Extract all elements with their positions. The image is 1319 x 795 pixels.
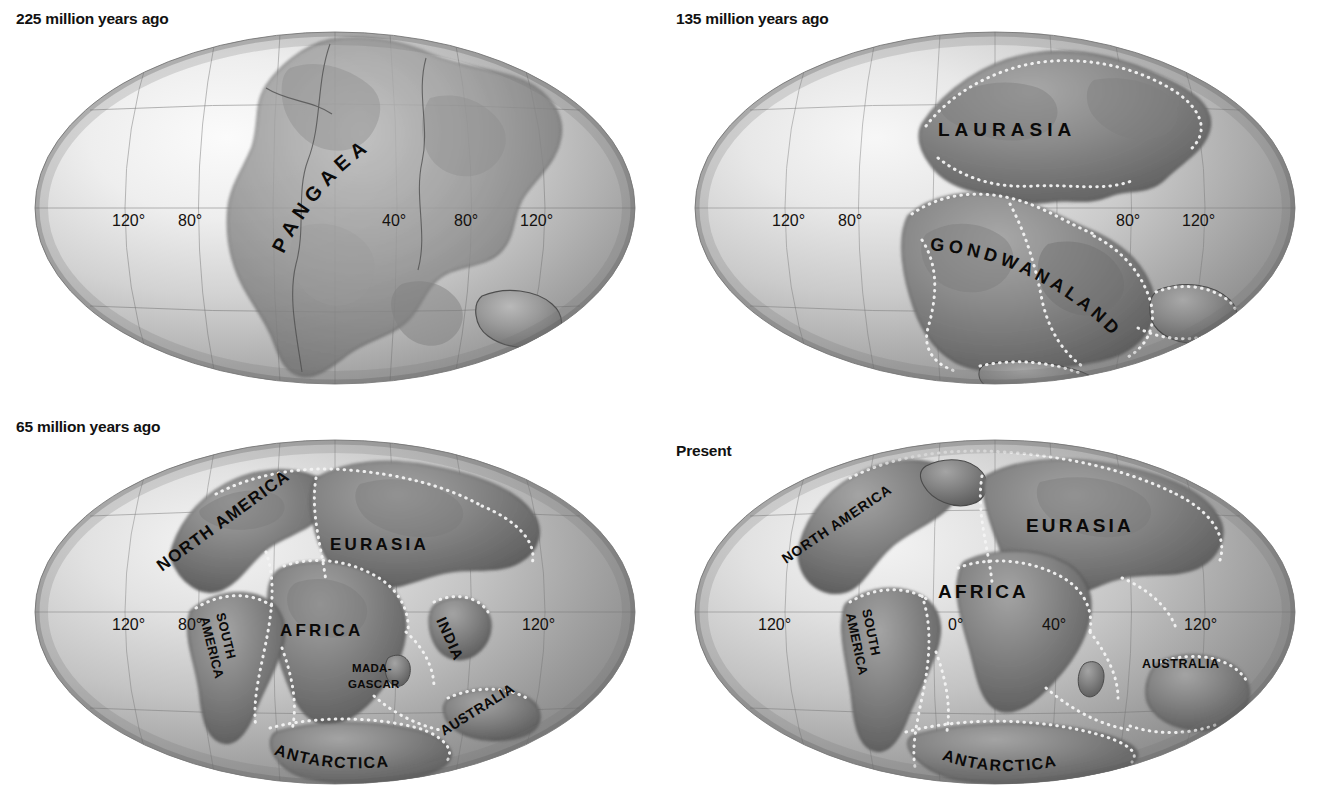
globe-present: 120° 0° 40° 120° NORTH AMERICA EURASIA A…: [690, 436, 1300, 788]
lon-label: 40°: [1042, 616, 1066, 633]
lon-label: 120°: [758, 616, 791, 633]
lon-label: 80°: [1116, 212, 1140, 229]
lon-label: 120°: [1182, 212, 1215, 229]
label-madagascar-line1: MADA-: [352, 662, 392, 674]
lon-label: 120°: [112, 212, 145, 229]
globe-135-ma: 120° 80° 80° 120° LAURASIA GONDWANALAND: [690, 28, 1300, 388]
label-australia: AUSTRALIA: [1142, 657, 1220, 671]
lon-label: 80°: [178, 212, 202, 229]
panel-title-135-ma: 135 million years ago: [676, 10, 829, 28]
panel-title-225-ma: 225 million years ago: [16, 10, 169, 28]
globe-225-ma: 120° 80° 40° 80° 120° PANGAEA: [30, 28, 640, 388]
panel-225-ma: 225 million years ago: [0, 0, 660, 400]
label-africa: AFRICA: [938, 581, 1029, 602]
lon-label: 120°: [522, 616, 555, 633]
label-africa: AFRICA: [280, 621, 363, 640]
lon-label: 80°: [838, 212, 862, 229]
label-eurasia: EURASIA: [1026, 515, 1134, 536]
label-madagascar-line2: GASCAR: [348, 678, 400, 690]
panel-present: Present: [660, 400, 1319, 795]
panel-65-ma: 65 million years ago: [0, 400, 660, 795]
lon-label: 0°: [948, 616, 963, 633]
lon-label: 40°: [382, 212, 406, 229]
lon-label: 80°: [454, 212, 478, 229]
lon-label: 120°: [772, 212, 805, 229]
lon-label: 120°: [112, 616, 145, 633]
label-laurasia: LAURASIA: [938, 119, 1076, 140]
panel-135-ma: 135 million years ago: [660, 0, 1319, 400]
lon-label: 120°: [1184, 616, 1217, 633]
globe-65-ma: 120° 80° 120° NORTH AMERICA EURASIA AFRI…: [30, 436, 640, 788]
panel-title-65-ma: 65 million years ago: [16, 418, 160, 436]
lon-label: 120°: [520, 212, 553, 229]
label-eurasia: EURASIA: [330, 535, 429, 554]
landmass-pangaea: [228, 38, 562, 376]
